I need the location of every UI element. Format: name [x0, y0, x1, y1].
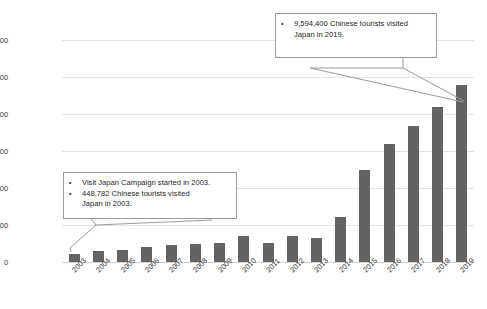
bullet-icon: • [69, 178, 82, 189]
callout-2019: • 9,594,400 Chinese tourists visited Jap… [275, 13, 437, 58]
callout-2003-line-1: • Visit Japan Campaign started in 2003. [69, 178, 229, 189]
y-axis-tick-label: 6000000 [0, 147, 8, 156]
y-axis-tick-label: 0 [0, 258, 8, 267]
bar [335, 217, 346, 262]
bar [359, 170, 370, 262]
callout-2019-text: 9,594,400 Chinese tourists visited Japan… [294, 19, 429, 40]
callout-2003-leader-line [60, 215, 245, 260]
callout-2003-text-2: 448,782 Chinese tourists visited Japan i… [82, 189, 229, 210]
y-axis-tick-label: 10000000 [0, 73, 8, 82]
callout-2003-text-2a: 448,782 Chinese tourists visited [82, 189, 190, 198]
bullet-icon: • [69, 189, 82, 200]
callout-2019-text-line2: Japan in 2019. [294, 30, 344, 39]
callout-2019-leader-line [300, 55, 475, 115]
y-axis-tick-label: 2000000 [0, 221, 8, 230]
y-axis-tick-label: 8000000 [0, 110, 8, 119]
callout-2003-text-2b: Japan in 2003. [82, 199, 132, 208]
callout-2003-line-2: • 448,782 Chinese tourists visited Japan… [69, 189, 229, 210]
bar [432, 107, 443, 262]
callout-2003-text-1: Visit Japan Campaign started in 2003. [82, 178, 229, 189]
y-axis-tick-label: 4000000 [0, 184, 8, 193]
bullet-icon: • [281, 19, 294, 30]
y-axis-tick-label: 12000000 [0, 36, 8, 45]
callout-2003: • Visit Japan Campaign started in 2003. … [63, 172, 237, 219]
callout-2019-text-line1: 9,594,400 Chinese tourists visited [294, 19, 408, 28]
bar [384, 144, 395, 262]
callout-2019-line: • 9,594,400 Chinese tourists visited Jap… [281, 19, 429, 40]
bar [408, 126, 419, 262]
chart-screenshot: 0200000040000006000000800000010000000120… [0, 0, 487, 309]
